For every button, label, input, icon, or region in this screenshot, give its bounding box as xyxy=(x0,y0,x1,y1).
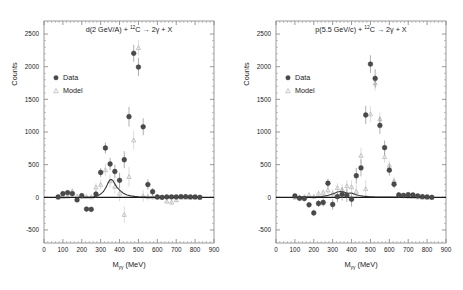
x-tick-label-600: 600 xyxy=(152,246,163,253)
data-point xyxy=(340,192,345,197)
data-point xyxy=(127,114,132,119)
data-point xyxy=(160,195,165,200)
panel-title: p(5.5 GeV/c) + 12C → 2γ + X xyxy=(315,25,407,34)
x-tick-label-300: 300 xyxy=(327,246,338,253)
data-point xyxy=(179,194,184,199)
data-point xyxy=(396,193,401,198)
title-beam: d(2 GeV/A) + xyxy=(86,25,130,34)
x-axis-title: Mγγ (MeV) xyxy=(344,260,377,270)
x-tick-label-200: 200 xyxy=(308,246,319,253)
y-tick-label-1000: 1000 xyxy=(25,128,40,135)
x-tick-label-500: 500 xyxy=(365,246,376,253)
legend-label-model: Model xyxy=(295,86,315,95)
data-point xyxy=(415,194,420,199)
chart-panel-right: 0100200300400500600700800900-50005001000… xyxy=(232,0,463,290)
data-point xyxy=(363,113,368,118)
data-point xyxy=(117,178,122,183)
data-point xyxy=(420,194,425,199)
y-tick-label-1500: 1500 xyxy=(257,96,272,103)
legend-marker-data xyxy=(286,76,290,80)
data-point xyxy=(321,200,326,205)
title-beam: p(5.5 GeV/c) + xyxy=(315,25,364,34)
data-point xyxy=(392,182,397,187)
data-point xyxy=(174,195,179,200)
plot-frame xyxy=(44,21,214,243)
data-point xyxy=(387,168,392,173)
data-point xyxy=(70,191,75,196)
title-target: C xyxy=(135,25,142,34)
data-point xyxy=(112,169,117,174)
x-tick-label-900: 900 xyxy=(209,246,220,253)
data-point xyxy=(326,181,331,186)
y-tick-label-1500: 1500 xyxy=(25,96,40,103)
data-point xyxy=(382,145,387,150)
data-point xyxy=(60,191,65,196)
data-point xyxy=(188,195,193,200)
chart-svg-left: 0100200300400500600700800900-50005001000… xyxy=(0,0,231,290)
title-products: 2γ + X xyxy=(150,25,173,34)
data-point xyxy=(359,166,364,171)
data-point xyxy=(145,182,150,187)
x-tick-label-900: 900 xyxy=(441,246,452,253)
panel-title: d(2 GeV/A) + 12C → 2γ + X xyxy=(86,25,173,34)
legend-label-data: Data xyxy=(295,73,310,82)
data-point xyxy=(335,194,340,199)
y-tick-label--500: -500 xyxy=(26,226,39,233)
y-tick-label--500: -500 xyxy=(258,226,271,233)
data-point xyxy=(141,124,146,129)
data-point xyxy=(122,157,127,162)
data-point xyxy=(94,192,99,197)
x-tick-label-700: 700 xyxy=(403,246,414,253)
x-tick-label-100: 100 xyxy=(58,246,69,253)
x-tick-label-600: 600 xyxy=(384,246,395,253)
data-point xyxy=(164,195,169,200)
chart-svg-right: 0100200300400500600700800900-50005001000… xyxy=(232,0,463,290)
data-point xyxy=(292,194,297,199)
data-point xyxy=(131,51,136,56)
title-target: C xyxy=(370,25,377,34)
series-data xyxy=(292,55,434,216)
x-tick-label-0: 0 xyxy=(274,246,278,253)
series-data xyxy=(56,45,202,212)
x-tick-label-0: 0 xyxy=(42,246,46,253)
x-axis-title: Mγγ (MeV) xyxy=(112,260,145,270)
data-point xyxy=(84,207,89,212)
y-tick-label-2000: 2000 xyxy=(25,63,40,70)
data-point xyxy=(330,202,335,207)
data-point xyxy=(297,196,302,201)
data-point xyxy=(183,194,188,199)
data-point xyxy=(307,202,312,207)
x-axis-title-unit: (MeV) xyxy=(123,260,145,269)
y-axis-title: Counts xyxy=(242,62,251,86)
y-axis-title: Counts xyxy=(10,62,19,86)
x-tick-label-800: 800 xyxy=(422,246,433,253)
model-fit-curve xyxy=(82,180,201,198)
data-point xyxy=(98,170,103,175)
data-point xyxy=(89,207,94,212)
data-point xyxy=(311,211,316,216)
title-products: 2γ + X xyxy=(384,25,407,34)
x-tick-label-300: 300 xyxy=(95,246,106,253)
data-point xyxy=(368,62,373,67)
data-point xyxy=(75,198,80,203)
data-point xyxy=(150,189,155,194)
legend-marker-model xyxy=(54,88,59,92)
data-point xyxy=(108,162,113,167)
data-point xyxy=(377,123,382,128)
x-tick-label-400: 400 xyxy=(114,246,125,253)
data-point xyxy=(373,76,378,81)
data-point xyxy=(349,197,354,202)
y-tick-label-1000: 1000 xyxy=(257,128,272,135)
data-point xyxy=(406,192,411,197)
legend-marker-model xyxy=(286,88,291,92)
data-point xyxy=(197,195,202,200)
data-point xyxy=(56,195,61,200)
data-point xyxy=(193,195,198,200)
title-arrow: → xyxy=(143,25,150,34)
plot-right-root: 0100200300400500600700800900-50005001000… xyxy=(242,21,452,270)
data-point xyxy=(316,201,321,206)
x-tick-label-200: 200 xyxy=(76,246,87,253)
legend-label-data: Data xyxy=(63,73,78,82)
title-arrow: → xyxy=(377,25,384,34)
y-tick-label-2500: 2500 xyxy=(257,30,272,37)
